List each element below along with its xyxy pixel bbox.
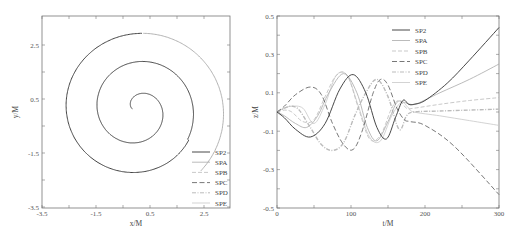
legend-label: SPC: [215, 179, 228, 187]
y-tick-label: 0.5: [30, 96, 39, 104]
legend-item-spa: SPA: [392, 37, 427, 45]
series-line-spb: [277, 72, 499, 141]
legend-label: SPD: [215, 189, 228, 197]
legend-label: SPC: [415, 58, 428, 66]
y-tick-label: -3.5: [28, 204, 40, 212]
x-tick-label: 2.5: [200, 210, 209, 218]
series-line-spd: [277, 79, 499, 150]
legend-item-spb: SPB: [392, 48, 428, 56]
z-vs-t-plot: 0100200300-0.5-0.3-0.10.10.30.5 t/M z/M …: [251, 13, 505, 229]
figure: -3.5-1.50.52.5-3.5-1.50.52.5 x/M y/M SP2…: [0, 0, 518, 236]
series-line-spe: [277, 72, 499, 143]
z-axis-title: z/M: [251, 106, 260, 118]
t-axis-title: t/M: [383, 219, 394, 228]
right-legend: SP2SPASPBSPCSPDSPE: [392, 27, 428, 88]
legend-label: SPB: [215, 169, 228, 177]
y-tick-label: 0.1: [265, 89, 274, 97]
right-plot-ticks: 0100200300-0.5-0.3-0.10.10.30.5: [263, 13, 505, 219]
legend-label: SPB: [415, 48, 428, 56]
legend-item-spd: SPD: [392, 69, 428, 77]
orbit-spiral-tail: [143, 33, 223, 171]
legend-label: SP2: [215, 149, 227, 157]
x-tick-label: 200: [420, 210, 431, 218]
y-tick-label: -0.5: [263, 205, 275, 213]
legend-label: SPA: [415, 37, 427, 45]
x-tick-label: 0: [275, 210, 279, 218]
y-tick-label: -1.5: [28, 150, 40, 158]
legend-label: SPA: [215, 159, 227, 167]
y-tick-label: 2.5: [30, 42, 39, 50]
right-plot-frame: [277, 16, 499, 208]
legend-item-spd: SPD: [192, 189, 228, 197]
legend-label: SPD: [415, 69, 428, 77]
x-tick-label: -1.5: [90, 210, 102, 218]
orbit-spiral-line: [66, 33, 193, 172]
right-plot-series: [277, 28, 499, 195]
x-tick-label: 100: [346, 210, 357, 218]
y-tick-label: 0.3: [265, 51, 274, 59]
legend-item-spb: SPB: [192, 169, 228, 177]
left-plot-ticks: -3.5-1.50.52.5-3.5-1.50.52.5: [28, 16, 230, 218]
orbit-plot: -3.5-1.50.52.5-3.5-1.50.52.5 x/M y/M SP2…: [11, 16, 230, 228]
legend-label: SPE: [415, 79, 427, 87]
y-tick-label: -0.3: [263, 166, 275, 174]
x-tick-label: 300: [494, 210, 505, 218]
series-line-spa: [277, 64, 499, 141]
legend-item-sp2: SP2: [192, 149, 227, 157]
legend-item-spc: SPC: [392, 58, 428, 66]
legend-label: SP2: [415, 27, 427, 35]
x-axis-title: x/M: [130, 219, 143, 228]
legend-label: SPE: [215, 200, 227, 208]
x-tick-label: 0.5: [146, 210, 155, 218]
legend-item-spc: SPC: [192, 179, 228, 187]
y-tick-label: 0.5: [265, 13, 274, 21]
y-axis-title: y/M: [11, 105, 20, 118]
legend-item-spe: SPE: [192, 200, 227, 208]
left-legend: SP2SPASPBSPCSPDSPE: [192, 149, 228, 208]
legend-item-spe: SPE: [392, 79, 427, 87]
y-tick-label: -0.1: [263, 128, 275, 136]
legend-item-sp2: SP2: [392, 27, 427, 35]
left-plot-frame: [42, 16, 230, 208]
